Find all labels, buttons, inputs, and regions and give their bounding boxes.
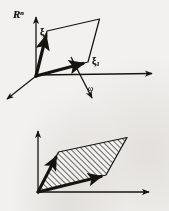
ambient-space-drawing (0, 0, 169, 105)
axis-horizontal-top (36, 74, 152, 76)
label-xi1: ξ1 (92, 56, 100, 67)
figure-root: Rn ξ2 ξ1 ω (0, 0, 169, 211)
label-ambient-space: Rn (13, 9, 24, 20)
axis-oblique-top (7, 76, 36, 99)
panel-ambient-space: Rn ξ2 ξ1 ω (0, 0, 169, 105)
vector-xi2 (36, 36, 46, 76)
label-omega-map: ω (88, 85, 93, 93)
panel-image-plane: ω2 ω1 ω(ξ2 ) ω(ξ1 ) (0, 105, 169, 211)
label-xi2: ξ2 (40, 27, 48, 38)
image-plane-drawing (0, 105, 169, 211)
